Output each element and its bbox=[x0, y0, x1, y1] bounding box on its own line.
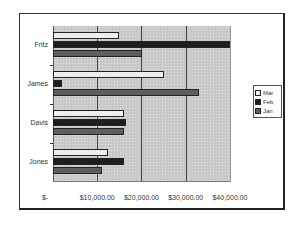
category-label-fritz: Fritz bbox=[8, 41, 48, 48]
x-tick-label: $30,000.00 bbox=[168, 194, 203, 201]
legend-label-jan: Jan bbox=[263, 108, 273, 114]
plot-area bbox=[53, 26, 231, 182]
bar-davis-jan bbox=[53, 128, 124, 135]
bar-davis-feb bbox=[53, 119, 126, 126]
legend-swatch-feb bbox=[255, 99, 261, 105]
x-axis bbox=[53, 181, 230, 182]
legend-item-mar: Mar bbox=[255, 88, 280, 97]
bar-jones-feb bbox=[53, 158, 124, 165]
legend-swatch-mar bbox=[255, 90, 261, 96]
legend-item-feb: Feb bbox=[255, 97, 280, 106]
bar-fritz-jan bbox=[53, 50, 142, 57]
x-tick-label: $40,000.00 bbox=[212, 194, 247, 201]
bar-fritz-mar bbox=[53, 32, 119, 39]
category-label-jones: Jones bbox=[8, 158, 48, 165]
x-tick-label: $10,000.00 bbox=[80, 194, 115, 201]
bar-fritz-feb bbox=[53, 41, 230, 48]
bar-jones-mar bbox=[53, 149, 108, 156]
bar-jones-jan bbox=[53, 167, 102, 174]
legend-label-mar: Mar bbox=[263, 90, 273, 96]
legend-label-feb: Feb bbox=[263, 99, 273, 105]
x-tick-label: $- bbox=[42, 194, 48, 201]
legend-item-jan: Jan bbox=[255, 106, 280, 115]
bar-davis-mar bbox=[53, 110, 124, 117]
y-tick bbox=[50, 104, 53, 105]
x-tick-label: $20,000.00 bbox=[124, 194, 159, 201]
category-label-james: James bbox=[8, 80, 48, 87]
legend-swatch-jan bbox=[255, 108, 261, 114]
y-tick bbox=[50, 65, 53, 66]
gridline-30000 bbox=[186, 26, 187, 182]
category-label-davis: Davis bbox=[8, 119, 48, 126]
y-tick bbox=[50, 143, 53, 144]
bar-james-jan bbox=[53, 89, 199, 96]
legend: Mar Feb Jan bbox=[253, 85, 282, 118]
bar-james-mar bbox=[53, 71, 164, 78]
bar-james-feb bbox=[53, 80, 62, 87]
